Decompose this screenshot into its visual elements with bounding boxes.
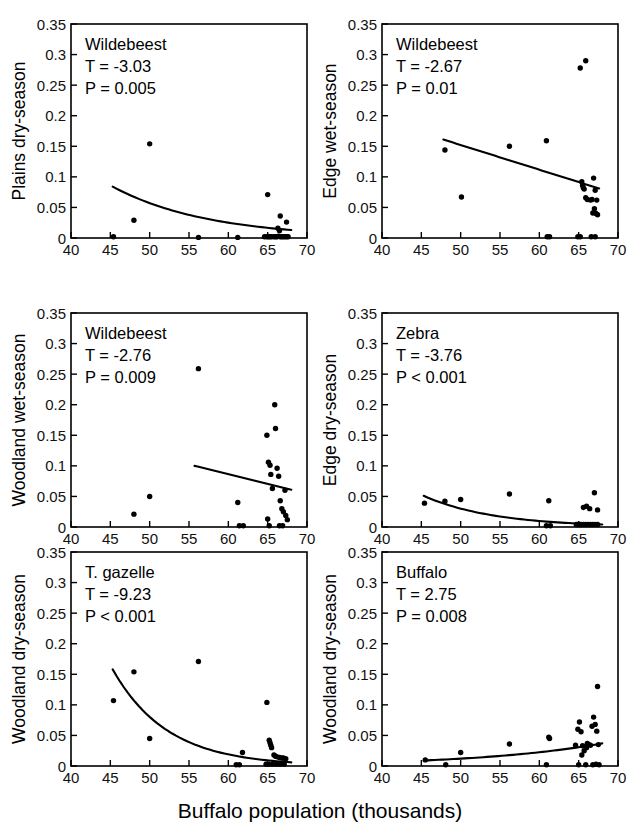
data-point: [592, 722, 597, 727]
y-tick-label: 0.05: [37, 199, 66, 216]
species-label: T. gazelle: [85, 563, 155, 581]
data-point: [590, 210, 595, 215]
data-point: [276, 474, 281, 479]
t-statistic-label: T = -3.03: [85, 57, 151, 75]
t-statistic-label: T = -2.76: [85, 346, 151, 364]
data-point: [442, 499, 447, 504]
x-tick-label: 45: [413, 241, 430, 258]
data-point: [273, 426, 278, 431]
x-axis-title: Buffalo population (thousands): [178, 799, 462, 822]
p-value-label: P < 0.001: [85, 607, 156, 625]
data-point: [284, 219, 289, 224]
t-statistic-label: T = 2.75: [396, 585, 457, 603]
data-point: [548, 523, 553, 528]
data-point: [442, 147, 447, 152]
y-tick-label: 0.35: [348, 16, 377, 33]
data-point: [583, 762, 588, 767]
x-tick-label: 70: [299, 241, 316, 258]
data-point: [278, 213, 283, 218]
y-tick-label: 0.1: [45, 168, 66, 185]
data-point: [459, 194, 464, 199]
y-tick-label: 0.15: [37, 427, 66, 444]
x-tick-label: 70: [610, 530, 627, 547]
data-point: [578, 729, 583, 734]
data-point: [595, 522, 600, 527]
data-point: [458, 497, 463, 502]
y-tick-label: 0.3: [45, 46, 66, 63]
x-tick-label: 45: [413, 769, 430, 786]
data-point: [275, 226, 280, 231]
p-value-label: P = 0.008: [396, 607, 467, 625]
data-point: [507, 491, 512, 496]
y-tick-label: 0.05: [348, 727, 377, 744]
data-point: [237, 762, 242, 767]
x-tick-label: 55: [181, 769, 198, 786]
x-tick-label: 65: [259, 769, 276, 786]
y-tick-label: 0.05: [37, 488, 66, 505]
data-point: [576, 762, 581, 767]
data-point: [578, 65, 583, 70]
data-point: [577, 719, 582, 724]
y-tick-label: 0.15: [348, 427, 377, 444]
x-tick-label: 55: [181, 530, 198, 547]
data-point: [595, 684, 600, 689]
data-point: [270, 486, 275, 491]
data-point: [147, 494, 152, 499]
y-tick-label: 0.3: [356, 335, 377, 352]
data-point: [594, 728, 599, 733]
y-tick-label: 0.15: [37, 138, 66, 155]
x-tick-label: 70: [299, 769, 316, 786]
data-point: [596, 742, 601, 747]
species-label: Wildebeest: [396, 35, 478, 53]
data-point: [272, 402, 277, 407]
data-point: [584, 745, 589, 750]
data-point: [265, 192, 270, 197]
data-point: [592, 490, 597, 495]
x-tick-label: 50: [141, 769, 158, 786]
data-point: [595, 212, 600, 217]
data-point: [147, 736, 152, 741]
data-point: [241, 523, 246, 528]
panel-edge-wet-season-wildebeest: 00.050.10.150.20.250.30.3540455055606570…: [320, 16, 626, 259]
y-tick-label: 0.25: [37, 77, 66, 94]
data-point: [458, 750, 463, 755]
data-point: [546, 498, 551, 503]
t-statistic-label: T = -3.76: [396, 346, 462, 364]
y-tick-label: 0.25: [37, 366, 66, 383]
x-tick-label: 40: [63, 769, 80, 786]
data-point: [264, 700, 269, 705]
data-point: [111, 698, 116, 703]
data-point: [240, 750, 245, 755]
species-label: Wildebeest: [85, 324, 167, 342]
panel-woodland-dry-season-t-gazelle: 00.050.10.150.20.250.30.3540455055606570…: [9, 544, 315, 787]
y-tick-label: 0.3: [356, 574, 377, 591]
x-tick-label: 55: [492, 241, 509, 258]
data-point: [274, 466, 279, 471]
p-value-label: P = 0.01: [396, 79, 458, 97]
data-point: [285, 234, 290, 239]
p-value-label: P < 0.001: [396, 368, 467, 386]
x-tick-label: 70: [299, 530, 316, 547]
data-point: [267, 463, 272, 468]
y-tick-label: 0.2: [45, 396, 66, 413]
y-tick-label: 0.15: [37, 666, 66, 683]
panel-woodland-dry-season-buffalo: 00.050.10.150.20.250.30.3540455055606570…: [320, 544, 626, 787]
panel-edge-dry-season-zebra: 00.050.10.150.20.250.30.3540455055606570…: [320, 305, 626, 548]
data-point: [594, 197, 599, 202]
data-point: [282, 488, 287, 493]
x-tick-label: 60: [531, 530, 548, 547]
data-point: [196, 366, 201, 371]
x-tick-label: 55: [492, 530, 509, 547]
data-point: [278, 498, 283, 503]
y-tick-label: 0.1: [356, 696, 377, 713]
data-point: [595, 507, 600, 512]
data-point: [235, 235, 240, 240]
x-tick-label: 50: [452, 530, 469, 547]
t-statistic-label: T = -2.67: [396, 57, 462, 75]
y-tick-label: 0.05: [348, 488, 377, 505]
scatter-panel-figure: 00.050.10.150.20.250.30.3540455055606570…: [0, 0, 636, 840]
x-tick-label: 40: [374, 769, 391, 786]
y-tick-label: 0.25: [37, 605, 66, 622]
data-point: [268, 472, 273, 477]
data-point: [573, 743, 578, 748]
